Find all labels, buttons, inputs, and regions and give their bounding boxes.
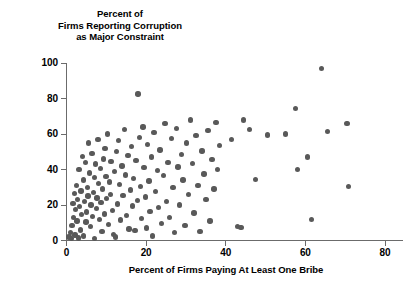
data-point	[80, 154, 85, 159]
data-point	[126, 226, 131, 231]
data-point	[170, 185, 175, 190]
data-point	[123, 172, 128, 177]
data-point	[155, 168, 160, 173]
data-point	[172, 230, 177, 235]
x-axis-title: Percent of Firms Paying At Least One Bri…	[67, 264, 385, 275]
data-point	[108, 159, 113, 164]
x-tick-label: 80	[365, 247, 405, 258]
data-point	[96, 181, 101, 186]
data-point	[90, 214, 95, 219]
data-point	[151, 130, 156, 135]
y-tick-label: 60	[18, 128, 58, 139]
y-tick-mark	[61, 205, 66, 206]
data-point	[186, 192, 191, 197]
data-point	[229, 137, 234, 142]
data-point	[111, 232, 116, 237]
data-point	[76, 167, 81, 172]
data-point	[213, 120, 218, 125]
data-point	[68, 230, 73, 235]
data-point	[132, 228, 137, 233]
data-point	[94, 206, 99, 211]
data-point	[107, 179, 112, 184]
data-point	[203, 197, 208, 202]
data-point	[115, 201, 120, 206]
data-point	[102, 146, 107, 151]
data-point	[188, 117, 193, 122]
data-point	[295, 167, 300, 172]
y-axis-line	[66, 63, 67, 241]
data-point	[100, 186, 105, 191]
data-point	[78, 188, 83, 193]
data-point	[346, 184, 351, 189]
scatter-chart-figure: Percent of Firms Reporting Corruption as…	[0, 0, 415, 291]
data-point	[191, 210, 196, 215]
data-point	[184, 140, 189, 145]
data-point	[149, 154, 154, 159]
data-point	[106, 222, 111, 227]
data-point	[205, 128, 210, 133]
y-tick-mark	[61, 98, 66, 99]
x-tick-label: 20	[126, 247, 166, 258]
y-tick-label: 100	[18, 57, 58, 68]
data-point	[309, 217, 314, 222]
data-point	[167, 215, 172, 220]
data-point	[99, 229, 104, 234]
data-point	[150, 233, 155, 238]
data-point	[140, 124, 145, 129]
data-point	[177, 202, 182, 207]
data-point	[112, 169, 117, 174]
data-point	[130, 203, 135, 208]
data-point	[117, 182, 122, 187]
data-point	[81, 177, 86, 182]
y-tick-mark	[61, 169, 66, 170]
data-point	[180, 177, 185, 182]
data-point	[137, 135, 142, 140]
data-point	[87, 170, 92, 175]
data-point	[119, 163, 124, 168]
x-tick-label: 40	[206, 247, 246, 258]
y-axis-title: Percent of Firms Reporting Corruption as…	[30, 8, 210, 43]
data-point	[135, 91, 140, 96]
data-point	[217, 143, 222, 148]
data-point	[153, 189, 158, 194]
data-point	[125, 153, 130, 158]
data-point	[138, 184, 143, 189]
data-point	[157, 147, 162, 152]
data-point	[83, 219, 88, 224]
data-point	[88, 202, 93, 207]
data-point	[84, 209, 89, 214]
data-point	[89, 151, 94, 156]
data-point	[133, 158, 138, 163]
data-point	[83, 160, 88, 165]
data-point	[164, 199, 169, 204]
data-point	[72, 232, 77, 237]
data-point	[169, 136, 174, 141]
data-point	[197, 229, 202, 234]
data-point	[253, 177, 258, 182]
x-tick-mark	[146, 241, 147, 246]
data-point	[103, 174, 108, 179]
x-axis-line	[66, 240, 403, 241]
data-point	[159, 221, 164, 226]
data-point	[95, 137, 100, 142]
data-point	[156, 205, 161, 210]
data-point	[98, 166, 103, 171]
data-point	[211, 186, 216, 191]
data-point	[108, 192, 113, 197]
data-point	[129, 144, 134, 149]
data-point	[70, 201, 75, 206]
data-point	[113, 234, 118, 239]
data-point	[91, 190, 96, 195]
data-point	[131, 176, 136, 181]
data-point	[165, 160, 170, 165]
data-point	[175, 164, 180, 169]
data-point	[81, 233, 86, 238]
data-point	[238, 225, 243, 230]
data-point	[199, 148, 204, 153]
y-tick-label: 80	[18, 93, 58, 104]
y-tick-mark	[61, 134, 66, 135]
data-point	[135, 198, 140, 203]
x-tick-label: 0	[47, 247, 87, 258]
y-tick-label: 20	[18, 199, 58, 210]
data-point	[235, 224, 240, 229]
